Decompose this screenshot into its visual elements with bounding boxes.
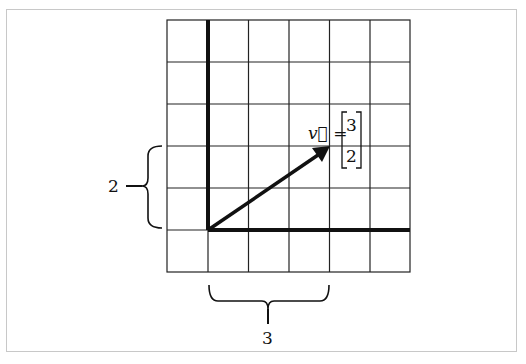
brace-label-2: 2 — [108, 176, 119, 196]
brace-label-3: 3 — [262, 328, 273, 348]
vertical-brace — [126, 146, 162, 228]
vector-diagram: v⃗ = 3 2 2 3 — [0, 0, 526, 364]
vector-component-y: 2 — [346, 146, 357, 166]
arrowhead-icon — [312, 146, 330, 162]
vector-label: v⃗ = 3 2 — [308, 112, 361, 168]
grid — [167, 20, 410, 272]
horizontal-brace — [209, 285, 329, 324]
vector-component-x: 3 — [346, 115, 357, 135]
